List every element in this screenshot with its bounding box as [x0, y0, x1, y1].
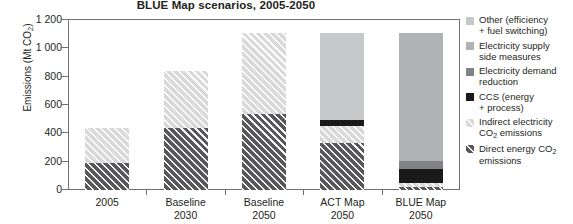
legend-label-line2: emissions	[479, 155, 556, 166]
legend-label: Electricity supplyside measures	[479, 40, 550, 62]
chart-legend: Other (efficiency+ fuel switching)Electr…	[466, 14, 573, 169]
bar-segment-ccs	[399, 169, 443, 183]
x-axis-label-line2: 2050	[375, 209, 467, 222]
legend-label-line1: Electricity demand	[479, 65, 557, 76]
legend-label: Electricity demandreduction	[479, 65, 557, 87]
legend-label-line2: reduction	[479, 76, 557, 87]
y-axis-tick-label: 400	[10, 126, 62, 138]
x-axis-tick-mark	[303, 190, 304, 195]
bar-segment-demand	[399, 161, 443, 169]
x-axis-label-line1: BLUE Map	[375, 196, 467, 209]
bar-segment-indirect	[164, 71, 208, 128]
legend-label-subscript: 2	[493, 132, 497, 139]
x-axis-tick-mark	[146, 190, 147, 195]
x-axis-tick-mark	[382, 190, 383, 195]
y-axis-tick-label: 200	[10, 155, 62, 167]
y-axis-tick-label: 800	[10, 70, 62, 82]
legend-swatch-demand-icon	[466, 68, 474, 76]
bar-segment-direct	[164, 128, 208, 190]
legend-label-line1: Other (efficiency	[479, 14, 548, 25]
chart-title: BLUE Map scenarios, 2005-2050	[100, 0, 352, 11]
legend-label-line1: CCS (energy	[479, 91, 534, 102]
legend-item-other[interactable]: Other (efficiency+ fuel switching)	[466, 14, 573, 36]
legend-label-line2: + process)	[479, 102, 534, 113]
legend-label-line1: Electricity supply	[479, 40, 550, 51]
legend-label: Direct energy CO2emissions	[479, 143, 556, 166]
legend-swatch-ccs-icon	[466, 93, 474, 101]
legend-label-subscript: 2	[552, 148, 556, 155]
legend-label-line2: side measures	[479, 51, 550, 62]
legend-item-indirect[interactable]: Indirect electricityCO2 emissions	[466, 116, 573, 139]
legend-label-line1: Direct energy CO2	[479, 143, 556, 155]
bar-segment-direct	[85, 163, 129, 190]
bar-segment-direct	[399, 187, 443, 190]
plot-area	[68, 19, 460, 190]
legend-item-supply[interactable]: Electricity supplyside measures	[466, 40, 573, 62]
bar-segment-other	[320, 33, 364, 120]
legend-label: CCS (energy+ process)	[479, 91, 534, 113]
bar-2005	[85, 128, 129, 190]
y-axis-tick-label: 600	[10, 98, 62, 110]
legend-swatch-indirect-icon	[466, 119, 474, 127]
legend-swatch-supply-icon	[466, 42, 474, 50]
y-axis-tick-group: 02004006008001 0001 200	[0, 0, 62, 224]
legend-item-direct[interactable]: Direct energy CO2emissions	[466, 143, 573, 166]
bar-baseline-2050	[242, 33, 286, 190]
legend-label: Other (efficiency+ fuel switching)	[479, 14, 548, 36]
bar-segment-supply	[399, 33, 443, 161]
legend-label-line1: Indirect electricity	[479, 116, 552, 127]
y-axis-tick-label: 0	[10, 183, 62, 195]
chart-root: BLUE Map scenarios, 2005-2050 Emissions …	[0, 0, 573, 224]
x-axis-tick-mark	[225, 190, 226, 195]
bar-segment-direct	[242, 114, 286, 190]
legend-label-line2: CO2 emissions	[479, 127, 552, 139]
legend-label: Indirect electricityCO2 emissions	[479, 116, 552, 139]
legend-item-demand[interactable]: Electricity demandreduction	[466, 65, 573, 87]
bar-act-map-2050	[320, 33, 364, 190]
y-axis-tick-label: 1 000	[10, 41, 62, 53]
legend-swatch-direct-icon	[466, 145, 474, 153]
bar-baseline-2030	[164, 71, 208, 190]
bar-segment-indirect	[85, 128, 129, 163]
bar-segment-direct	[320, 143, 364, 190]
bar-segment-indirect	[320, 126, 364, 143]
legend-item-ccs[interactable]: CCS (energy+ process)	[466, 91, 573, 113]
x-axis-label: BLUE Map2050	[375, 196, 467, 221]
y-axis-tick-label: 1 200	[10, 13, 62, 25]
bar-segment-indirect	[242, 33, 286, 114]
bar-blue-map-2050	[399, 33, 443, 190]
legend-swatch-other-icon	[466, 17, 474, 25]
legend-label-line2: + fuel switching)	[479, 25, 548, 36]
